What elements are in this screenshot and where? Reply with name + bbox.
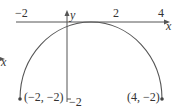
point-right (160, 97, 164, 101)
graph: −2 2 4 x y −2 (−2, −2) (4, −2) x (0, 0, 173, 108)
x-axis-label: x (165, 19, 172, 33)
point-right-label: (4, −2) (127, 90, 160, 104)
y-axis-arrow-icon (65, 10, 70, 16)
point-left (18, 97, 22, 101)
point-left-label: (−2, −2) (24, 90, 64, 104)
curve (20, 22, 162, 99)
x-tick-4-label: 4 (158, 6, 164, 20)
x-tick-neg2-label: −2 (15, 6, 28, 20)
y-axis-label: y (69, 8, 76, 22)
stray-x-label: x (0, 55, 7, 69)
x-tick-2-label: 2 (113, 6, 119, 20)
y-tick-neg2-label: −2 (69, 95, 82, 108)
